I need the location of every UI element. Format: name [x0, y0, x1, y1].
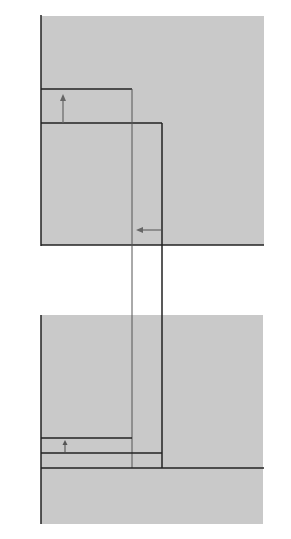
bottom-plot-area: [41, 315, 263, 524]
top-plot-area: [41, 16, 264, 245]
figure: [0, 0, 291, 539]
